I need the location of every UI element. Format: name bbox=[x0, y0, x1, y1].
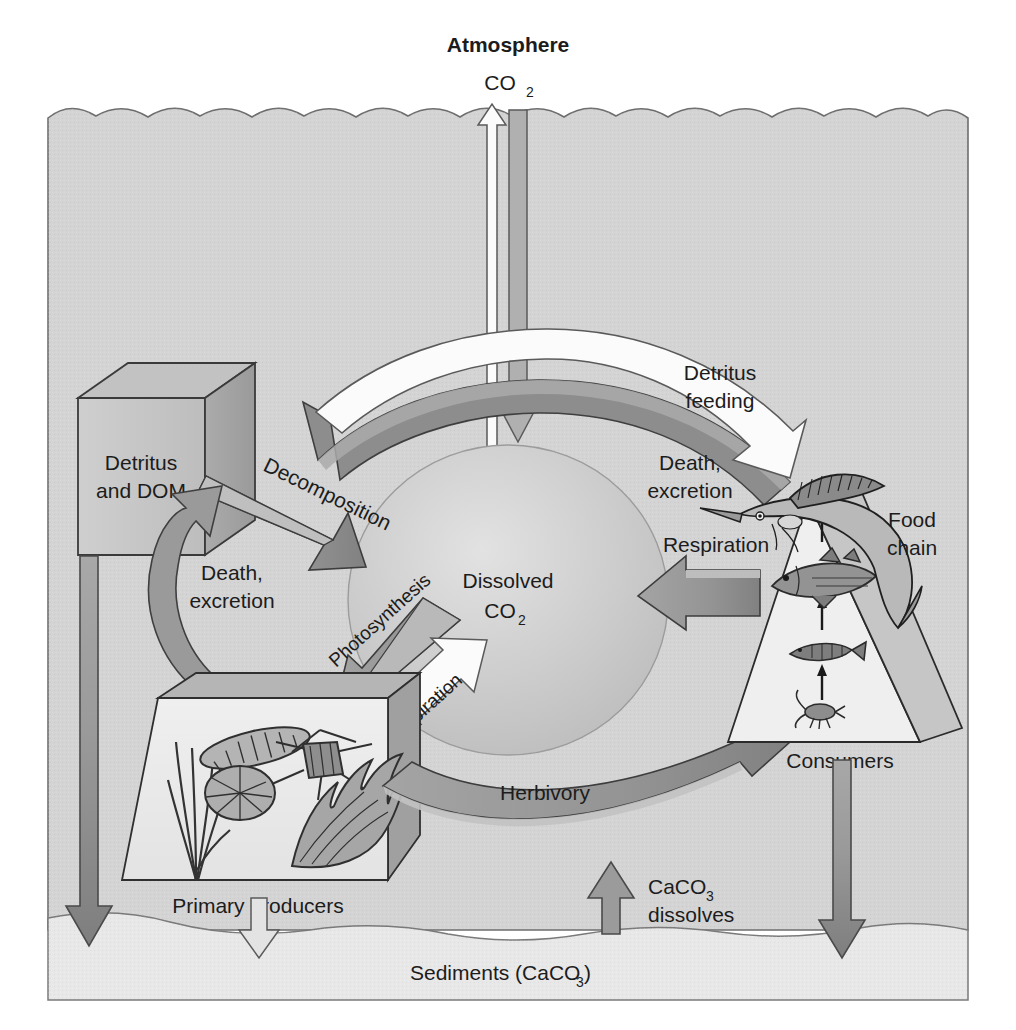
herbivory-label: Herbivory bbox=[500, 781, 590, 804]
svg-text:Death,: Death, bbox=[659, 451, 721, 474]
svg-text:feeding: feeding bbox=[686, 389, 755, 412]
respiration-consumers-label: Respiration bbox=[663, 533, 769, 556]
svg-text:3: 3 bbox=[576, 974, 584, 990]
detritus-label-line2: and DOM bbox=[96, 479, 186, 502]
svg-text:chain: chain bbox=[887, 536, 937, 559]
svg-text:Food: Food bbox=[888, 508, 936, 531]
svg-text:2: 2 bbox=[526, 84, 534, 100]
svg-text:Detritus: Detritus bbox=[684, 361, 756, 384]
atmosphere-label: Atmosphere bbox=[447, 33, 570, 56]
svg-text:dissolves: dissolves bbox=[648, 903, 734, 926]
svg-text:Death,: Death, bbox=[201, 561, 263, 584]
svg-text:excretion: excretion bbox=[647, 479, 732, 502]
svg-text:3: 3 bbox=[706, 888, 714, 904]
dissolved-co2-subscript: 2 bbox=[518, 612, 526, 628]
svg-text:CO: CO bbox=[484, 71, 516, 94]
dissolved-co2-line2: CO bbox=[484, 599, 516, 622]
diagram-canvas: Atmosphere CO 2 Dissolved CO 2 Detritus … bbox=[0, 0, 1016, 1030]
svg-text:CaCO: CaCO bbox=[648, 875, 706, 898]
detritus-label-line1: Detritus bbox=[105, 451, 177, 474]
dissolved-co2-line1: Dissolved bbox=[462, 569, 553, 592]
svg-text:): ) bbox=[584, 961, 591, 984]
co2-atmosphere-label: CO 2 bbox=[484, 71, 534, 100]
primary-producers-box bbox=[122, 673, 420, 880]
svg-text:excretion: excretion bbox=[189, 589, 274, 612]
svg-text:Sediments (CaCO: Sediments (CaCO bbox=[410, 961, 580, 984]
centric-diatom-icon bbox=[205, 766, 275, 820]
